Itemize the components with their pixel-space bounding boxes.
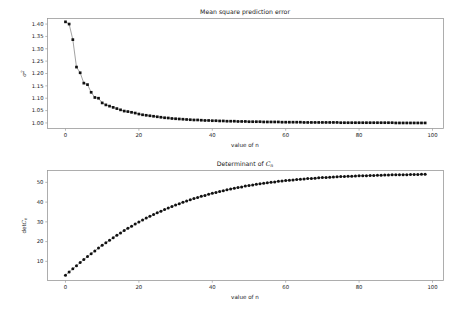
data-point	[295, 121, 298, 124]
data-point	[277, 121, 280, 124]
data-point	[259, 182, 262, 185]
data-point	[93, 96, 96, 99]
data-point	[387, 174, 390, 177]
data-point	[203, 194, 206, 197]
data-point	[71, 267, 74, 270]
x-tick-label: 100	[427, 132, 438, 138]
x-axis-label-top: value of n	[231, 142, 259, 148]
data-point	[416, 122, 419, 125]
data-point	[101, 102, 104, 105]
data-point	[182, 118, 185, 121]
data-point	[394, 122, 397, 125]
data-point	[347, 175, 350, 178]
data-point	[229, 120, 232, 123]
data-point	[299, 178, 302, 181]
data-point	[185, 200, 188, 203]
data-point	[126, 227, 129, 230]
data-point	[178, 118, 181, 121]
series-markers-bottom	[64, 173, 427, 277]
data-point	[123, 229, 126, 232]
data-point	[141, 113, 144, 116]
data-point	[306, 177, 309, 180]
data-point	[372, 121, 375, 124]
data-point	[192, 197, 195, 200]
data-point	[383, 174, 386, 177]
data-point	[420, 173, 423, 176]
data-point	[262, 121, 265, 124]
x-tick-label: 40	[209, 284, 216, 290]
data-point	[343, 121, 346, 124]
plot-frame-top	[48, 19, 444, 129]
data-point	[343, 175, 346, 178]
y-tick-label: 1.10	[32, 95, 44, 101]
data-point	[299, 121, 302, 124]
data-point	[211, 192, 214, 195]
data-point	[93, 249, 96, 252]
data-point	[244, 120, 247, 123]
data-point	[215, 119, 218, 122]
y-tick-label: 1.20	[32, 70, 44, 76]
data-point	[82, 258, 85, 261]
data-point	[200, 195, 203, 198]
data-point	[391, 173, 394, 176]
series-line-top	[65, 22, 425, 123]
data-point	[310, 177, 313, 180]
data-point	[119, 108, 122, 111]
y-tick-label: 1.40	[32, 21, 44, 27]
y-tick-label: 20	[37, 238, 44, 244]
data-point	[145, 114, 148, 117]
data-point	[416, 173, 419, 176]
data-point	[255, 120, 258, 123]
y-axis-label-bottom: detCn	[21, 217, 28, 233]
y-tick-label: 1.25	[32, 58, 44, 64]
data-point	[361, 121, 364, 124]
data-point	[251, 120, 254, 123]
data-point	[365, 121, 368, 124]
data-point	[134, 223, 137, 226]
data-point	[365, 174, 368, 177]
chart-canvas-top: Mean square prediction error 02040608010…	[0, 0, 465, 152]
y-tick-label: 1.00	[32, 120, 44, 126]
data-point	[214, 191, 217, 194]
data-point	[104, 241, 107, 244]
data-point	[292, 121, 295, 124]
data-point	[295, 178, 298, 181]
data-point	[350, 175, 353, 178]
data-point	[255, 183, 258, 186]
data-point	[112, 106, 115, 109]
data-point	[222, 120, 225, 123]
chart-title-top: Mean square prediction error	[200, 8, 290, 16]
data-point	[325, 121, 328, 124]
data-point	[171, 117, 174, 120]
y-tick-label: 1.30	[32, 46, 44, 52]
data-point	[237, 120, 240, 123]
data-point	[306, 121, 309, 124]
chart-title-bottom: Determinant of Cn	[217, 160, 274, 168]
data-point	[134, 112, 137, 115]
data-point	[152, 213, 155, 216]
matplotlib-figure: Mean square prediction error 02040608010…	[0, 0, 465, 310]
data-point	[82, 82, 85, 85]
data-point	[68, 271, 71, 274]
data-point	[156, 115, 159, 118]
data-point	[185, 118, 188, 121]
data-point	[405, 122, 408, 125]
data-point	[204, 119, 207, 122]
x-tick-label: 0	[64, 132, 68, 138]
data-point	[181, 201, 184, 204]
data-point	[376, 121, 379, 124]
data-point	[218, 190, 221, 193]
data-point	[116, 107, 119, 110]
subplot-mean-square-prediction-error: Mean square prediction error 02040608010…	[0, 0, 465, 152]
data-point	[354, 175, 357, 178]
data-point	[137, 221, 140, 224]
data-point	[79, 71, 82, 74]
data-point	[196, 119, 199, 122]
data-point	[75, 66, 78, 69]
data-point	[284, 179, 287, 182]
data-point	[226, 120, 229, 123]
data-point	[130, 225, 133, 228]
data-point	[409, 173, 412, 176]
data-point	[127, 110, 130, 113]
data-point	[413, 122, 416, 125]
